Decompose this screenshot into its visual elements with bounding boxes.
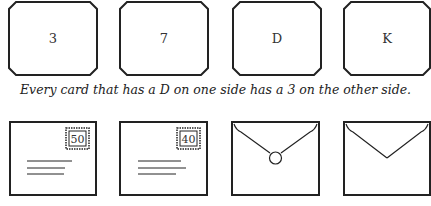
envelope-4 [344, 122, 430, 195]
card-1-face: 3 [49, 31, 57, 46]
card-4-face: K [382, 31, 392, 46]
envelope-3 [232, 122, 319, 195]
wax-seal-icon [270, 152, 282, 164]
card-3-face: D [272, 31, 282, 46]
stamp-2-value: 40 [182, 133, 196, 146]
rule-caption: Every card that has a D on one side has … [0, 82, 431, 97]
stamp-1-value: 50 [71, 133, 85, 146]
card-2-face: 7 [160, 31, 168, 46]
puzzle-figure: 3 7 D K [0, 0, 431, 206]
